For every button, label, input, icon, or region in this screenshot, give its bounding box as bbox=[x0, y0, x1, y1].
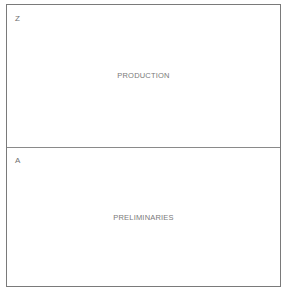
section-preliminaries: A PRELIMINARIES bbox=[7, 147, 280, 286]
section-production: Z PRODUCTION bbox=[7, 5, 280, 148]
diagram-frame: Z PRODUCTION A PRELIMINARIES bbox=[6, 4, 281, 287]
section-label: PRELIMINARIES bbox=[7, 213, 280, 222]
section-letter: A bbox=[15, 156, 20, 165]
section-label: PRODUCTION bbox=[7, 71, 280, 80]
section-letter: Z bbox=[15, 14, 20, 23]
